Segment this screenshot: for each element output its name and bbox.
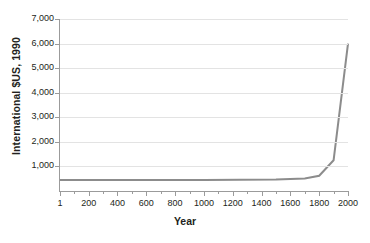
x-axis-tick-mark: [89, 192, 90, 196]
x-axis-minor-tick-mark: [334, 192, 335, 194]
y-axis-tick-mark: [55, 142, 59, 143]
x-axis-tick-mark: [290, 192, 291, 196]
y-axis-tick-label: 3,000: [20, 112, 54, 121]
x-axis-tick-mark: [60, 192, 61, 196]
gridline-horizontal: [60, 166, 348, 167]
x-axis-minor-tick-mark: [161, 192, 162, 194]
gridline-horizontal: [60, 19, 348, 20]
x-axis-minor-tick-mark: [276, 192, 277, 194]
gridline-horizontal: [60, 93, 348, 94]
x-axis-minor-tick-mark: [74, 192, 75, 194]
series-line-world-gdp-per-capita: [60, 19, 348, 191]
y-axis-tick-label: 1,000: [20, 161, 54, 170]
x-axis-tick-mark: [262, 192, 263, 196]
y-axis-tick-mark: [55, 117, 59, 118]
x-axis-tick-mark: [348, 192, 349, 196]
x-axis-tick-mark: [175, 192, 176, 196]
y-axis-tick-mark: [55, 68, 59, 69]
x-axis-minor-tick-mark: [218, 192, 219, 194]
y-axis-tick-label: 6,000: [20, 39, 54, 48]
gridline-horizontal: [60, 44, 348, 45]
series-polyline: [60, 44, 348, 180]
x-axis-minor-tick-mark: [103, 192, 104, 194]
y-axis-tick-label: 7,000: [20, 14, 54, 23]
x-axis-minor-tick-mark: [190, 192, 191, 194]
x-axis-tick-mark: [233, 192, 234, 196]
y-axis-tick-mark: [55, 19, 59, 20]
x-axis-tick-mark: [146, 192, 147, 196]
gridline-horizontal: [60, 117, 348, 118]
y-axis-tick-mark: [55, 93, 59, 94]
x-axis-minor-tick-mark: [247, 192, 248, 194]
caption-ghost-text: [0, 234, 370, 243]
y-axis-tick-label: 5,000: [20, 63, 54, 72]
x-axis-tick-mark: [204, 192, 205, 196]
x-axis-title: Year: [0, 215, 370, 227]
x-axis-tick-mark: [319, 192, 320, 196]
plot-area: [60, 19, 348, 191]
y-axis-tick-mark: [55, 166, 59, 167]
x-axis-tick-label: 2000: [328, 199, 368, 208]
x-axis-minor-tick-mark: [305, 192, 306, 194]
chart-figure: International $US, 1990 1,0002,0003,0004…: [0, 0, 370, 243]
x-axis-minor-tick-mark: [132, 192, 133, 194]
y-axis-tick-mark: [55, 44, 59, 45]
y-axis-tick-label: 2,000: [20, 137, 54, 146]
gridline-horizontal: [60, 68, 348, 69]
x-axis-tick-mark: [117, 192, 118, 196]
gridline-horizontal: [60, 142, 348, 143]
y-axis-tick-label: 4,000: [20, 88, 54, 97]
